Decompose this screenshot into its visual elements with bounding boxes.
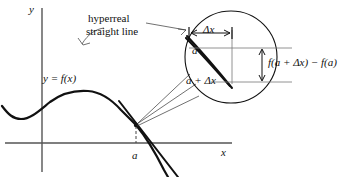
magnifier-leader-upper xyxy=(137,84,196,124)
diagram-svg xyxy=(0,0,339,177)
magnified-a-plus-delta-label: a + Δx xyxy=(186,75,216,87)
delta-x-label: Δx xyxy=(203,24,214,36)
delta-y-label: f(a + Δx) − f(a) xyxy=(268,57,337,69)
function-curve xyxy=(2,91,168,177)
annotation-line-2: straight line xyxy=(86,26,138,38)
function-label: y = f(x) xyxy=(43,73,76,85)
tangent-line xyxy=(119,101,178,177)
a-axis-label: a xyxy=(132,150,138,162)
magnifier-circle xyxy=(185,11,277,103)
annotation-line-1: hyperreal xyxy=(88,13,130,25)
magnifier-leader-lower xyxy=(137,96,199,126)
magnified-a-label: a xyxy=(192,45,198,57)
annotation-arrowhead-right xyxy=(178,29,186,35)
figure-canvas: y x y = f(x) hyperreal straight line a Δ… xyxy=(0,0,339,177)
y-axis-label: y xyxy=(29,4,34,16)
magnifier-leader-top xyxy=(138,74,190,123)
x-axis-label: x xyxy=(221,147,226,159)
